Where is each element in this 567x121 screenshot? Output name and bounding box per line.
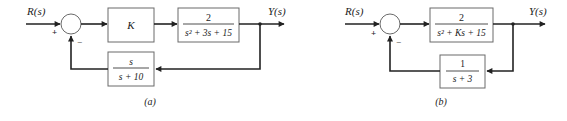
plant-numerator-a: 2 (206, 12, 211, 23)
block-diagrams: R(s) + − K 2 s² + 3s + 15 Y(s) s s + 10 … (0, 0, 567, 121)
minus-sign-b: − (396, 37, 401, 47)
input-label-b: R(s) (344, 5, 364, 18)
plant-numerator-b: 2 (459, 12, 464, 23)
feedback-denominator-a: s + 10 (119, 72, 144, 82)
summing-junction-b (380, 14, 400, 34)
minus-sign-a: − (77, 37, 82, 47)
caption-a: (a) (144, 96, 156, 108)
summing-junction-a (61, 14, 81, 34)
gain-label: K (126, 19, 135, 31)
feedback-numerator-a: s (129, 57, 133, 67)
feedback-numerator-b: 1 (460, 59, 465, 69)
diagram-b: R(s) + − 2 s² + Ks + 15 Y(s) 1 s + 3 (b) (344, 5, 547, 108)
input-label-a: R(s) (26, 5, 46, 18)
caption-b: (b) (435, 96, 447, 108)
plus-sign-a: + (52, 27, 57, 37)
output-label-b: Y(s) (529, 5, 547, 18)
feedback-denominator-b: s + 3 (453, 74, 473, 84)
diagram-a: R(s) + − K 2 s² + 3s + 15 Y(s) s s + 10 … (26, 5, 286, 108)
plant-denominator-b: s² + Ks + 15 (437, 28, 486, 38)
output-label-a: Y(s) (268, 5, 286, 18)
plant-denominator-a: s² + 3s + 15 (185, 28, 232, 38)
plus-sign-b: + (371, 28, 376, 38)
